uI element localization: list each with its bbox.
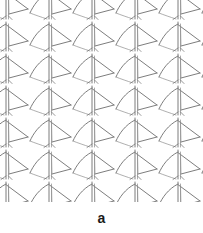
arrow-sail-motif [0,150,28,180]
figure-panel: a [0,0,203,233]
arrow-sail-motif [30,86,71,116]
arrow-sail-motif [73,54,114,84]
arrow-sail-motif [116,86,157,116]
arrow-sail-motif [73,150,114,180]
arrow-sail-motif [159,54,200,84]
arrow-sail-motif [202,182,203,202]
arrow-sail-motif [159,182,200,202]
arrow-sail-motif [202,86,203,116]
arrow-sail-motif [159,22,200,52]
arrow-sail-motif [116,0,157,20]
arrow-sail-motif [116,182,157,202]
arrow-sail-motif [73,182,114,202]
arrow-sail-motif [202,150,203,180]
arrow-sail-motif [159,0,200,20]
arrow-sail-motif [0,182,28,202]
arrow-sail-motif [30,54,71,84]
arrow-sail-motif [116,118,157,148]
arrow-sail-motif [116,54,157,84]
arrow-sail-motif [30,182,71,202]
pattern-tile-grid [0,0,203,202]
arrow-sail-motif [0,86,28,116]
arrow-sail-motif [73,86,114,116]
arrow-sail-motif [30,150,71,180]
arrow-sail-motif [159,118,200,148]
arrow-sail-motif [0,22,28,52]
panel-caption-label: a [0,203,203,233]
arrow-sail-motif [159,86,200,116]
pattern-tiling-svg [0,0,203,202]
arrow-sail-motif [30,118,71,148]
arrow-sail-motif [202,22,203,52]
arrow-sail-motif [159,150,200,180]
arrow-sail-motif [0,0,28,20]
arrow-sail-motif [73,118,114,148]
pattern-region [0,0,203,202]
arrow-sail-motif [0,118,28,148]
arrow-sail-motif [116,22,157,52]
arrow-sail-motif [0,54,28,84]
arrow-sail-motif [30,22,71,52]
arrow-sail-motif [202,54,203,84]
arrow-sail-motif [202,118,203,148]
arrow-sail-motif [116,150,157,180]
arrow-sail-motif [202,0,203,20]
arrow-sail-motif [73,22,114,52]
arrow-sail-motif [73,0,114,20]
arrow-sail-motif [30,0,71,20]
